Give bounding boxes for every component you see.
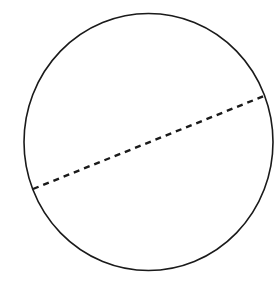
dashed-diameter-line bbox=[33, 96, 264, 189]
circle-diagram bbox=[0, 0, 280, 283]
